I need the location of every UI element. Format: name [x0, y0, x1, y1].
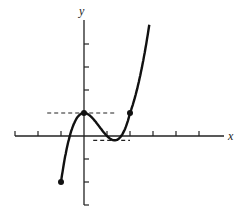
x-axis-label: x [227, 129, 234, 143]
function-curve [61, 25, 149, 182]
marked-point [58, 179, 64, 185]
y-ticks [84, 44, 89, 205]
axes [15, 20, 224, 205]
marked-point [81, 110, 87, 116]
y-axis-label: y [78, 4, 85, 18]
marked-point [127, 110, 133, 116]
cubic-function-graph: x y [0, 0, 242, 215]
